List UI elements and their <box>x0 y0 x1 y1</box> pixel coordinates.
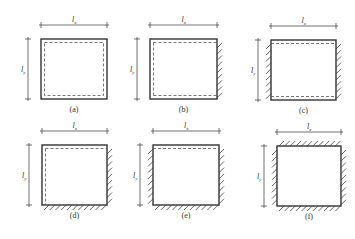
panel-caption: (b) <box>179 105 189 114</box>
dim-y-label: ly <box>133 171 138 181</box>
panel-f: lxly(f) <box>257 122 346 221</box>
dim-y-label: ly <box>251 66 256 76</box>
dim-x-label: lx <box>72 15 77 25</box>
panel-caption: (f) <box>305 212 313 221</box>
slab-outline <box>271 40 336 100</box>
dim-y-label: ly <box>130 65 135 75</box>
slab-boundary-diagram: lxly(a)lxly(b)lxly(c)lxly(d)lxly(e)lxly(… <box>0 0 355 239</box>
dim-x-label: lx <box>184 121 189 131</box>
panel-e: lxly(e) <box>133 121 224 220</box>
dim-y-label: ly <box>22 171 27 181</box>
panel-c: lxly(c) <box>251 16 341 115</box>
dim-x-label: lx <box>73 121 78 131</box>
dim-x-label: lx <box>307 122 312 132</box>
slab-outline <box>153 145 219 205</box>
panel-caption: (d) <box>70 211 80 220</box>
panel-a: lxly(a) <box>21 15 109 114</box>
slab-outline <box>42 145 107 205</box>
dim-x-label: lx <box>182 15 187 25</box>
panel-caption: (a) <box>70 105 79 114</box>
panel-caption: (c) <box>299 106 308 115</box>
panel-d: lxly(d) <box>22 121 112 220</box>
panel-caption: (e) <box>182 211 191 220</box>
panel-b: lxly(b) <box>130 15 222 114</box>
slab-outline <box>150 39 217 99</box>
slab-outline <box>41 39 107 99</box>
slab-outline <box>277 146 341 206</box>
dim-y-label: ly <box>21 65 26 75</box>
dim-x-label: lx <box>302 16 307 26</box>
dim-y-label: ly <box>257 172 262 182</box>
